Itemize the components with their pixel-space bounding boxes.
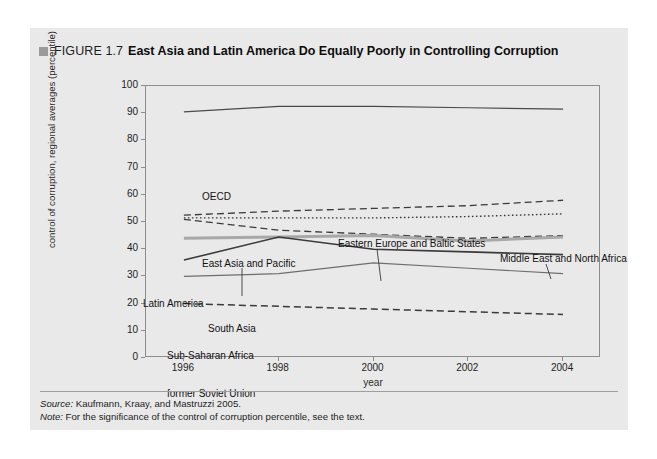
series-label: South Asia [208, 324, 256, 334]
y-axis-ticks: 0102030405060708090100 [108, 85, 138, 357]
y-tick-label: 40 [108, 243, 138, 253]
y-tick-label: 90 [108, 107, 138, 117]
note-keyword: Note: [40, 411, 63, 422]
y-tick-label: 10 [108, 325, 138, 335]
x-axis-title: year [363, 377, 382, 388]
x-tick-mark [467, 357, 468, 361]
series-line [184, 214, 563, 218]
y-tick-label: 100 [108, 80, 138, 90]
y-tick-label: 0 [108, 352, 138, 362]
source-line: Source: Kaufmann, Kraay, and Mastruzzi 2… [40, 397, 620, 410]
series-label: Latin America [143, 299, 204, 309]
note-text: For the significance of the control of c… [63, 411, 365, 422]
plot-frame [145, 85, 600, 357]
notes-divider [40, 391, 618, 392]
y-tick-label: 60 [108, 189, 138, 199]
note-line: Note: For the significance of the contro… [40, 410, 620, 423]
series-label: East Asia and Pacific [202, 259, 295, 269]
series-label: Sub-Saharan Africa [167, 351, 254, 361]
x-tick-label: 2004 [551, 362, 573, 373]
x-tick-mark [562, 357, 563, 361]
series-label: Eastern Europe and Baltic States [338, 239, 485, 249]
plot-lines [146, 86, 601, 358]
chart-area: control of corruption, regional averages… [30, 74, 628, 384]
y-tick-label: 70 [108, 162, 138, 172]
series-line [184, 106, 563, 111]
figure-title-row: FIGURE 1.7 East Asia and Latin America D… [39, 44, 558, 58]
series-line [184, 304, 563, 315]
x-tick-label: 1998 [267, 362, 289, 373]
source-keyword: Source: [40, 398, 73, 409]
x-tick-label: 2002 [456, 362, 478, 373]
x-tick-label: 1996 [172, 362, 194, 373]
y-tick-label: 30 [108, 270, 138, 280]
series-label: OECD [202, 192, 231, 202]
page-title: East Asia and Latin America Do Equally P… [128, 44, 558, 58]
y-tick-label: 20 [108, 298, 138, 308]
x-tick-label: 2000 [361, 362, 383, 373]
x-tick-mark [373, 357, 374, 361]
y-tick-mark [141, 357, 145, 358]
figure-number: FIGURE 1.7 [54, 44, 123, 58]
source-text: Kaufmann, Kraay, and Mastruzzi 2005. [73, 398, 241, 409]
y-axis-title: control of corruption, regional averages… [46, 28, 57, 280]
x-tick-mark [183, 357, 184, 361]
x-tick-mark [278, 357, 279, 361]
figure-notes: Source: Kaufmann, Kraay, and Mastruzzi 2… [40, 391, 620, 423]
series-label: Middle East and North Africa [500, 254, 627, 264]
series-line [184, 200, 563, 215]
y-tick-label: 80 [108, 134, 138, 144]
y-tick-label: 50 [108, 216, 138, 226]
figure-panel: FIGURE 1.7 East Asia and Latin America D… [30, 28, 628, 430]
